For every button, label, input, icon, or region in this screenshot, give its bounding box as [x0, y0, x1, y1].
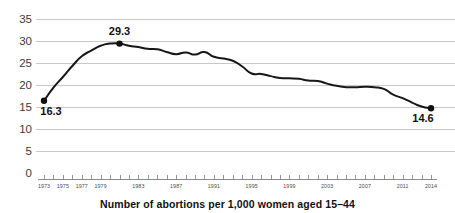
- chart-caption: Number of abortions per 1,000 women aged…: [0, 198, 455, 210]
- y-axis-tick-label: 15: [19, 101, 32, 113]
- data-value-label: 29.3: [109, 25, 130, 37]
- x-axis-tick-label: 1995: [246, 183, 258, 189]
- data-value-label: 14.6: [412, 112, 433, 124]
- data-point-marker: [41, 98, 47, 104]
- x-axis-tick-label: 2011: [397, 183, 409, 189]
- data-point-marker: [428, 105, 434, 111]
- data-value-label: 16.3: [40, 105, 61, 117]
- series-path: [44, 43, 431, 108]
- y-axis-tick-label: 5: [26, 145, 32, 157]
- x-tickmarks-group: [45, 175, 432, 179]
- data-series-line: [44, 43, 431, 108]
- x-axis-tick-label: 1999: [283, 183, 295, 189]
- x-axis-tick-label: 1991: [208, 183, 220, 189]
- x-axis-tick-label: 1979: [95, 183, 107, 189]
- data-point-marker: [116, 40, 122, 46]
- y-axis-tick-label: 10: [19, 123, 32, 135]
- chart-plot-area: 05101520253035 1973197519771979198319871…: [0, 0, 455, 213]
- y-axis-tick-label: 0: [26, 167, 32, 179]
- x-axis-tick-label: 1975: [57, 183, 69, 189]
- data-point-markers: [41, 40, 434, 111]
- x-axis-tick-label: 1973: [38, 183, 50, 189]
- y-axis-tick-labels: 05101520253035: [19, 13, 32, 179]
- y-axis-tick-label: 25: [19, 57, 32, 69]
- x-axis-tick-label: 1983: [132, 183, 144, 189]
- gridlines-group: [36, 20, 455, 152]
- x-axis-tick-labels: 1973197519771979198319871991199519992003…: [38, 183, 437, 189]
- y-axis-tick-label: 30: [19, 35, 32, 47]
- x-axis-tick-label: 2014: [425, 183, 437, 189]
- y-axis-tick-label: 35: [19, 13, 32, 25]
- x-axis-tick-label: 1987: [170, 183, 182, 189]
- data-value-annotations: 16.329.314.6: [40, 25, 433, 125]
- x-axis-tick-label: 1977: [76, 183, 88, 189]
- line-chart: 05101520253035 1973197519771979198319871…: [0, 0, 455, 213]
- x-axis-tick-label: 2007: [359, 183, 371, 189]
- x-axis-tick-label: 2003: [321, 183, 333, 189]
- y-axis-tick-label: 20: [19, 79, 32, 91]
